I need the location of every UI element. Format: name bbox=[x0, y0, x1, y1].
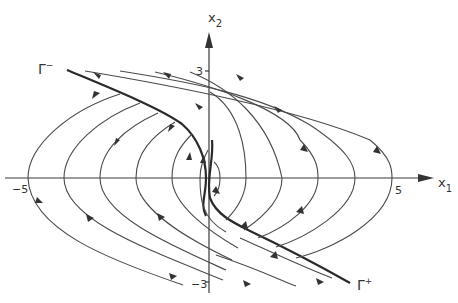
y-axis-arrow-icon bbox=[205, 32, 213, 48]
arrow-icon bbox=[35, 197, 43, 203]
arrow-icon bbox=[316, 278, 324, 285]
arrow-icon bbox=[236, 74, 244, 81]
arrow-icon bbox=[92, 91, 100, 99]
arrow-icon bbox=[195, 103, 203, 110]
x-tick-neg5: −5 bbox=[12, 183, 28, 196]
y-tick-neg3: −3 bbox=[191, 278, 207, 291]
arrow-icon bbox=[240, 221, 248, 229]
separatrix-gamma-plus bbox=[209, 140, 350, 283]
separatrix-gamma-minus bbox=[67, 70, 206, 216]
arrow-icon bbox=[86, 214, 94, 222]
x-tick-5: 5 bbox=[395, 184, 402, 197]
arrow-icon bbox=[169, 273, 177, 280]
gamma-plus-label: Γ+ bbox=[357, 276, 372, 293]
left-trajectories bbox=[28, 94, 238, 285]
arrow-icon bbox=[373, 146, 381, 154]
direction-arrows bbox=[35, 72, 381, 287]
right-trajectories bbox=[85, 71, 392, 258]
phase-portrait-diagram: x1 x2 −5 5 3 −3 bbox=[0, 0, 458, 303]
arrow-icon bbox=[186, 152, 192, 160]
x-axis-label: x1 bbox=[438, 175, 452, 194]
y-axis-label: x2 bbox=[208, 10, 222, 29]
gamma-minus-label: Γ− bbox=[38, 60, 53, 77]
arrow-icon bbox=[296, 206, 304, 214]
arrow-icon bbox=[243, 280, 251, 287]
x-axis-arrow-icon bbox=[418, 174, 434, 182]
